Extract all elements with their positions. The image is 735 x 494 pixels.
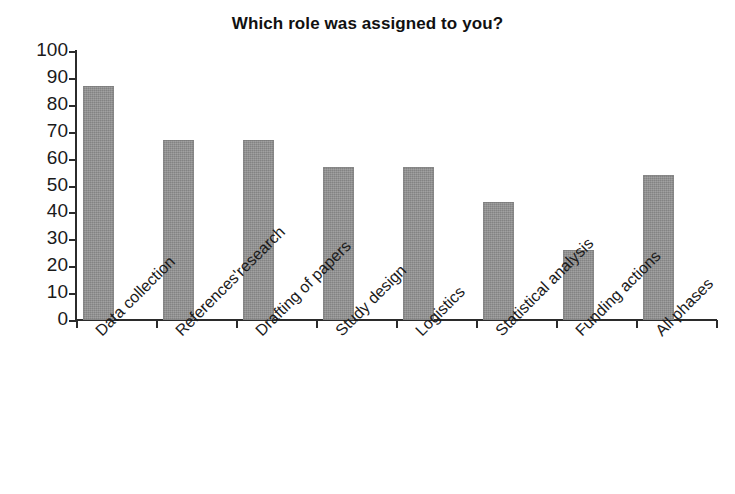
x-tick-mark	[396, 320, 398, 328]
y-tick-mark	[69, 293, 76, 295]
y-tick-mark	[69, 159, 76, 161]
bar	[483, 202, 514, 320]
x-tick-mark	[636, 320, 638, 328]
x-tick-mark	[476, 320, 478, 328]
bar	[163, 140, 194, 320]
bar-chart: Which role was assigned to you? 10090807…	[0, 0, 735, 494]
x-tick-mark	[316, 320, 318, 328]
y-tick-mark	[69, 239, 76, 241]
bar	[83, 86, 114, 320]
x-tick-mark	[76, 320, 78, 328]
y-tick-mark	[69, 51, 76, 53]
y-tick-mark	[69, 132, 76, 134]
y-tick-mark	[69, 320, 76, 322]
y-tick-label: 100	[36, 40, 68, 60]
y-tick-label: 10	[47, 282, 68, 302]
bar	[643, 175, 674, 320]
y-tick-mark	[69, 266, 76, 268]
y-tick-label: 90	[47, 67, 68, 87]
y-tick-label: 50	[47, 175, 68, 195]
bar	[403, 167, 434, 320]
y-tick-label: 20	[47, 255, 68, 275]
y-tick-mark	[69, 105, 76, 107]
y-tick-mark	[69, 212, 76, 214]
y-tick-label: 80	[47, 94, 68, 114]
y-tick-label: 60	[47, 148, 68, 168]
y-tick-mark	[69, 186, 76, 188]
x-tick-mark	[156, 320, 158, 328]
y-tick-label: 30	[47, 228, 68, 248]
y-tick-label: 70	[47, 121, 68, 141]
x-tick-mark	[716, 320, 718, 328]
x-tick-mark	[556, 320, 558, 328]
x-tick-mark	[236, 320, 238, 328]
y-tick-mark	[69, 78, 76, 80]
y-tick-label: 0	[57, 309, 68, 329]
y-tick-label: 40	[47, 201, 68, 221]
chart-title: Which role was assigned to you?	[0, 14, 735, 34]
